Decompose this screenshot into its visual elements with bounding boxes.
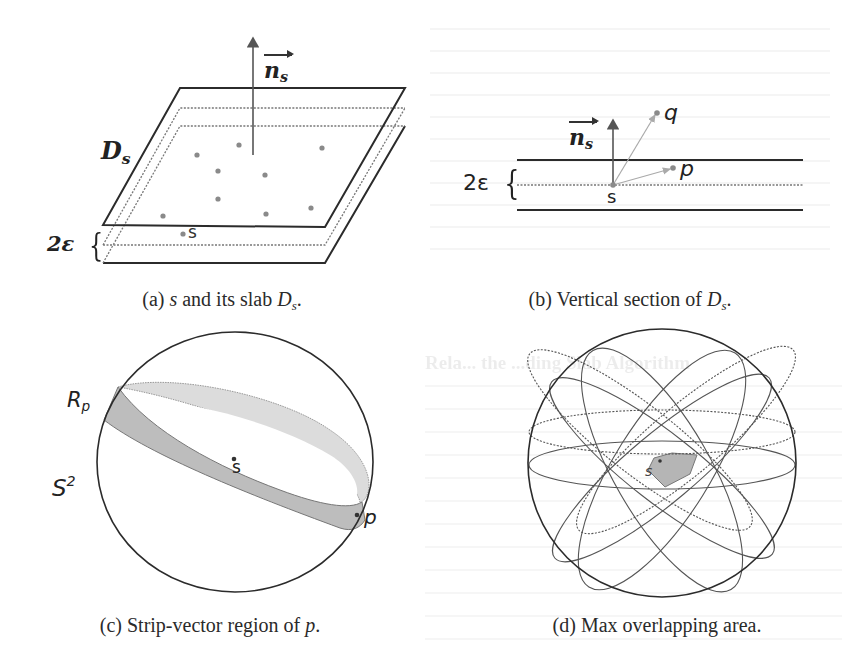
figure-drawings [0,0,842,672]
panel-b-caption: (b) Vertical section of Ds. [529,288,732,314]
panel-c-sphere-label: S2 [52,473,76,501]
slab-lower-plane [103,126,405,263]
panel-b-point-q: q [664,100,678,125]
slab-inner-plane [103,126,405,263]
panel-d-caption: (d) Max overlapping area. [553,614,762,637]
panel-a-slab-label: Ds [101,136,131,168]
panel-c-caption: (c) Strip-vector region of p. [100,614,320,637]
panel-a-brace: { [89,226,103,264]
panel-c-point-p: p [364,505,377,529]
panel-a-drawing [103,38,405,263]
panel-b-point-p: p [680,156,694,181]
panel-c-region-label: Rp [67,388,90,414]
panel-b-thickness-label: 2ε [463,170,489,195]
max-overlap-region [648,453,697,487]
panel-b-point-s: s [607,186,616,207]
sample-points [160,142,324,236]
panel-a-thickness-label: 2ε [47,231,74,256]
panel-d-drawing [509,324,815,614]
panel-b-brace: { [504,162,519,202]
panel-a-point-label: s [188,222,197,242]
panel-c-point-s: s [232,457,241,477]
slab-upper-plane [103,88,405,227]
panel-a-caption: (a) s and its slab Ds. [142,288,302,314]
panel-d-point-s: s [645,463,652,479]
panel-a-normal-label: ns [264,57,288,85]
panel-b-normal-label: ns [569,124,593,152]
panel-b-drawing [517,110,803,210]
